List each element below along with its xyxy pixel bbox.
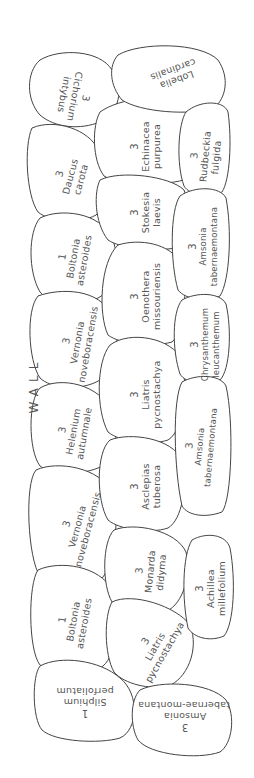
label-asclepias: 3Asclepiastuberosa bbox=[129, 442, 162, 532]
label-achillea: 3Achilleamillefolium bbox=[194, 544, 227, 634]
label-silphium: 1Silphiumperfoliatum bbox=[35, 686, 135, 719]
label-amsonia-3: 3Amsoniatabernae-montana bbox=[140, 700, 230, 733]
wall-label: WALL bbox=[27, 357, 41, 414]
label-oenothera: 3Oenotheramissouriensis bbox=[129, 247, 162, 347]
label-amsonia-1: 3Amsoniatabernaemontana bbox=[187, 187, 220, 307]
label-liatris-1: 3Liatrispycnostachya bbox=[129, 345, 162, 445]
label-stokesia: 3Stokesialaevis bbox=[129, 168, 162, 258]
